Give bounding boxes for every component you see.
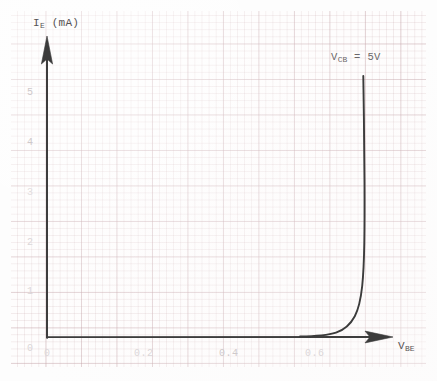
y-tick-label-1: 1 (27, 287, 34, 297)
curve-annotation: VCB = 5V (331, 52, 381, 64)
x-axis-title-subscript: BE (405, 344, 415, 353)
y-axis-title-subscript: E (40, 21, 45, 30)
y-axis-title-unit: (mA) (52, 17, 80, 29)
x-tick-label-0: 0 (44, 349, 51, 359)
y-tick-label-5: 5 (27, 88, 34, 98)
figure-page: IE (mA) VBE VCB = 5V 0 1 2 3 4 5 0 0.2 0… (0, 0, 437, 381)
y-tick-label-4: 4 (27, 138, 34, 148)
x-tick-label-0.4: 0.4 (219, 349, 239, 359)
x-tick-label-0.6: 0.6 (305, 349, 325, 359)
emitter-characteristic-curve (300, 76, 365, 336)
x-axis-title: VBE (398, 341, 415, 353)
y-tick-label-3: 3 (27, 188, 34, 198)
x-tick-label-0.2: 0.2 (134, 349, 154, 359)
y-axis-title: IE (mA) (33, 18, 79, 30)
y-tick-label-2: 2 (27, 238, 34, 248)
annotation-subscript: CB (338, 55, 348, 64)
y-tick-label-0: 0 (27, 344, 34, 354)
x-axis-title-base: V (398, 340, 405, 352)
y-axis-title-base: I (33, 17, 40, 29)
annotation-base: V (331, 51, 338, 63)
annotation-value: = 5V (354, 51, 381, 63)
